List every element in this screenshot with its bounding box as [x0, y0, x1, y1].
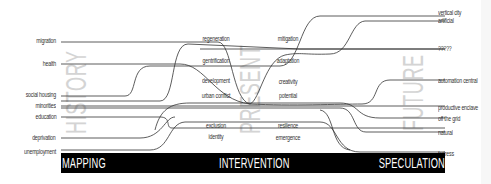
stage-mapping: MAPPING	[62, 153, 106, 173]
label-automation-central: automation central	[438, 77, 477, 84]
label-vertical-city: vertical city	[438, 9, 461, 16]
label-exclusion: exclusion	[191, 122, 240, 129]
label-development: development	[191, 77, 240, 84]
label-off-the-grid: off the grid	[438, 115, 460, 122]
line-health	[61, 44, 445, 101]
stage-intervention: INTERVENTION	[219, 153, 290, 173]
label-productive-enclave: productive enclave	[438, 104, 478, 111]
label-natural: natural	[438, 129, 453, 136]
label-social-housing: social housing	[26, 91, 56, 98]
label-potential: potential	[263, 92, 312, 99]
label-creativity: creativity	[263, 78, 312, 85]
label-regeneration: regeneration	[191, 35, 240, 42]
line-fortress	[320, 110, 350, 150]
line-unemployment	[61, 122, 445, 152]
line-education	[61, 117, 445, 128]
label-emergence: emergence	[263, 134, 312, 141]
label-identity: identity	[191, 133, 240, 140]
label-mitigation: mitigation	[263, 35, 312, 42]
stage-speculation: SPECULATION	[379, 153, 445, 173]
label-adaptation: adaptation	[263, 57, 312, 64]
label-artificial: artificial	[438, 17, 454, 24]
line-migration	[61, 42, 445, 105]
timeline-diagram: HISTORY PRESENT FUTURE	[0, 0, 491, 184]
label-gentrification: gentrification	[191, 57, 240, 64]
label-minorities: minorities	[36, 102, 56, 109]
label-deprivation: deprivation	[33, 134, 56, 141]
line-deprivation	[61, 117, 175, 138]
label-health: health	[43, 60, 56, 67]
label-resilience: resilience	[263, 122, 312, 129]
label-urban-conflict: urban conflict	[191, 92, 240, 99]
label-unknown: ?????	[438, 45, 452, 52]
label-unemployment: unemployment	[24, 148, 56, 155]
line-social-housing	[61, 16, 445, 96]
label-migration: migration	[36, 37, 56, 44]
label-education: education	[35, 113, 56, 120]
